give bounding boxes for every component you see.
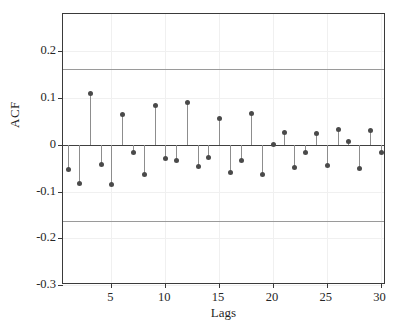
y-axis-tick [58, 192, 63, 193]
y-tick-label: 0.1 [10, 91, 56, 104]
stem-marker [282, 130, 287, 135]
x-tick-label: 30 [360, 291, 400, 304]
stem-marker [185, 100, 190, 105]
y-axis-tick [58, 98, 63, 99]
stem-marker [196, 164, 201, 169]
y-tick-label: -0.3 [10, 278, 56, 291]
stem-line [359, 145, 360, 168]
y-axis-tick [58, 51, 63, 52]
stem-line [294, 145, 295, 167]
x-axis-tick [111, 283, 112, 288]
x-tick-label: 15 [198, 291, 238, 304]
upper-confidence-bound-line [63, 69, 384, 70]
x-axis-tick [381, 283, 382, 288]
stem-marker [303, 150, 308, 155]
acf-plot-figure: ACF Lags 0.20.10-0.1-0.2-0.3 51015202530 [0, 0, 403, 331]
x-tick-label: 20 [252, 291, 292, 304]
stem-line [251, 113, 252, 145]
y-axis-tick [58, 238, 63, 239]
plot-area [62, 13, 385, 284]
stem-marker [88, 91, 93, 96]
y-axis-tick [58, 285, 63, 286]
stem-marker [99, 162, 104, 167]
stem-marker [153, 103, 158, 108]
stem-line [90, 93, 91, 145]
x-tick-label: 5 [90, 291, 130, 304]
x-tick-label: 25 [306, 291, 346, 304]
stem-line [198, 145, 199, 166]
stem-line [262, 145, 263, 174]
stem-line [219, 118, 220, 145]
stem-line [111, 145, 112, 184]
stem-line [230, 145, 231, 173]
stem-marker [109, 182, 114, 187]
stem-line [122, 114, 123, 144]
x-axis-tick [219, 283, 220, 288]
stem-line [155, 105, 156, 145]
gridline-vertical [219, 14, 220, 283]
stem-marker [239, 158, 244, 163]
stem-marker [142, 172, 147, 177]
stem-marker [292, 165, 297, 170]
y-axis-title: ACF [7, 101, 23, 128]
x-axis-tick [327, 283, 328, 288]
stem-marker [163, 156, 168, 161]
stem-marker [217, 116, 222, 121]
stem-line [68, 145, 69, 169]
x-axis-tick [165, 283, 166, 288]
stem-line [327, 145, 328, 166]
x-tick-label: 10 [144, 291, 184, 304]
stem-marker [260, 172, 265, 177]
stem-marker [66, 167, 71, 172]
x-axis-tick [273, 283, 274, 288]
stem-line [187, 102, 188, 145]
x-axis-title: Lags [62, 305, 385, 321]
stem-marker [249, 111, 254, 116]
stem-marker [379, 150, 384, 155]
y-tick-label: -0.2 [10, 231, 56, 244]
stem-line [79, 145, 80, 183]
y-tick-label: 0 [10, 138, 56, 151]
stem-marker [325, 163, 330, 168]
stem-marker [314, 131, 319, 136]
stem-marker [357, 166, 362, 171]
stem-marker [368, 128, 373, 133]
stem-marker [346, 139, 351, 144]
stem-marker [131, 150, 136, 155]
stem-marker [120, 112, 125, 117]
stem-marker [228, 170, 233, 175]
stem-marker [174, 158, 179, 163]
gridline-vertical [273, 14, 274, 283]
stem-line [144, 145, 145, 174]
lower-confidence-bound-line [63, 221, 384, 222]
stem-marker [206, 155, 211, 160]
y-tick-label: 0.2 [10, 44, 56, 57]
stem-marker [77, 181, 82, 186]
stem-marker [336, 127, 341, 132]
stem-marker [271, 142, 276, 147]
y-tick-label: -0.1 [10, 185, 56, 198]
